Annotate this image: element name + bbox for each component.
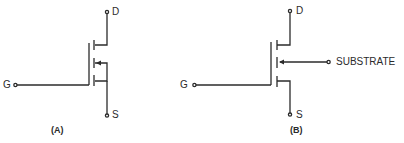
drain-terminal-a bbox=[105, 10, 108, 13]
source-label-b: S bbox=[296, 110, 303, 120]
substrate-link-a bbox=[95, 63, 107, 81]
source-label-a: S bbox=[112, 110, 119, 120]
drain-terminal-b bbox=[288, 9, 291, 12]
caption-b: (B) bbox=[290, 126, 303, 135]
drain-label-a: D bbox=[112, 7, 119, 17]
caption-a: (A) bbox=[51, 126, 64, 135]
substrate-arrow-icon-b bbox=[279, 60, 284, 65]
drain-label-b: D bbox=[296, 6, 303, 16]
gate-label-a: G bbox=[3, 80, 11, 90]
gate-terminal-a bbox=[14, 83, 17, 86]
source-terminal-a bbox=[105, 114, 108, 117]
gate-terminal-b bbox=[193, 83, 196, 86]
substrate-terminal-b bbox=[327, 60, 330, 63]
gate-label-b: G bbox=[180, 80, 188, 90]
drain-lead-a bbox=[95, 14, 107, 45]
substrate-arrow-icon-a bbox=[96, 61, 101, 66]
diagram-canvas bbox=[0, 0, 404, 143]
drain-lead-b bbox=[277, 13, 290, 45]
mosfet-symbol-b bbox=[193, 9, 330, 116]
source-terminal-b bbox=[288, 113, 291, 116]
source-lead-b bbox=[277, 81, 290, 113]
substrate-label-b: SUBSTRATE bbox=[336, 57, 395, 67]
mosfet-symbol-a bbox=[14, 10, 109, 117]
